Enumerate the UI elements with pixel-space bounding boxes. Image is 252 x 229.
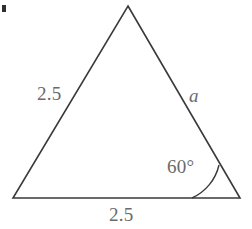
angle-arc-60 [192, 165, 219, 198]
label-side-right: a [189, 86, 199, 105]
label-angle-60: 60° [167, 157, 194, 176]
geometry-figure: 2.5 a 60° 2.5 [0, 0, 252, 229]
triangle-drawing [0, 0, 252, 229]
label-side-left: 2.5 [37, 84, 61, 103]
label-base: 2.5 [109, 205, 133, 224]
